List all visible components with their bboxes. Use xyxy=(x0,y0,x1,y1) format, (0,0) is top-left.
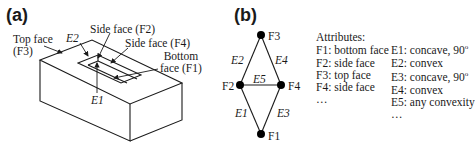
edge-attribute-e1: E1: concave, 90o xyxy=(391,44,468,56)
edge-label-e3: E3 xyxy=(277,107,290,119)
face-attribute-f2: F2: side face xyxy=(316,57,375,69)
face-attribute-f1: F1: bottom face xyxy=(316,44,389,56)
graph-node-f1 xyxy=(257,130,265,138)
graph-node-f4 xyxy=(277,81,285,89)
edge-label-e4: E4 xyxy=(275,54,288,66)
face-attribute-f3: F3: top face xyxy=(316,69,371,81)
bottom-face-label: Bottom face (F1) xyxy=(160,50,202,74)
graph-node-f3 xyxy=(257,31,265,39)
node-label-f4: F4 xyxy=(288,80,300,92)
edge-attribute-e4: E4: convex xyxy=(391,84,443,96)
node-label-f3: F3 xyxy=(268,30,280,42)
edge-attribute-e5: E5: any convexity xyxy=(391,96,475,108)
side-face-f4-label: Side face (F4) xyxy=(125,37,190,49)
edge-attribute-e2: E2: convex xyxy=(391,57,443,69)
edge-label-e2: E2 xyxy=(231,54,244,66)
edge-e1-label: E1 xyxy=(91,94,104,106)
side-face-f2-label: Side face (F2) xyxy=(90,23,155,35)
edge-attribute-more: … xyxy=(391,108,403,120)
panel-b-label: (b) xyxy=(234,6,257,24)
edge-attribute-e3: E3: concave, 90o xyxy=(391,71,468,83)
node-label-f2: F2 xyxy=(222,80,234,92)
face-attribute-more: … xyxy=(316,93,328,105)
attributes-title: Attributes: xyxy=(316,31,365,43)
node-label-f1: F1 xyxy=(268,130,280,142)
edge-e2-label: E2 xyxy=(66,32,79,44)
edge-label-e5: E5 xyxy=(253,73,266,85)
face-attribute-f4: F4: side face xyxy=(316,81,375,93)
top-face-label: Top face (F3) xyxy=(13,33,53,57)
edge-label-e1: E1 xyxy=(235,107,248,119)
graph-node-f2 xyxy=(236,81,244,89)
